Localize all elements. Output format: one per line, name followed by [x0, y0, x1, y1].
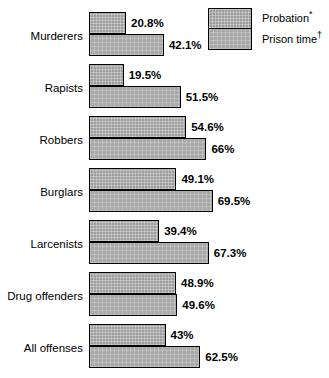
bar-probation: [89, 220, 159, 242]
bar-row: 49.6%: [89, 294, 215, 316]
bar-value-label: 39.4%: [164, 225, 197, 237]
bar-value-label: 49.6%: [182, 299, 215, 311]
bar-value-label: 66%: [211, 143, 234, 155]
bar-probation: [89, 116, 186, 138]
bar-probation: [89, 12, 126, 34]
bar-probation: [89, 272, 176, 294]
bar-group: Drug offenders48.9%49.6%: [0, 270, 329, 322]
bar-group: Burglars49.1%69.5%: [0, 166, 329, 218]
category-label: Drug offenders: [0, 270, 83, 322]
category-label: Larcenists: [0, 218, 83, 270]
category-label: All offenses: [0, 322, 83, 374]
bar-group: Rapists19.5%51.5%: [0, 62, 329, 114]
bar-row: 51.5%: [89, 86, 218, 108]
bar-group: All offenses43%62.5%: [0, 322, 329, 374]
bar-row: 66%: [89, 138, 235, 160]
bar-row: 19.5%: [89, 64, 161, 86]
bar-prison-time: [89, 294, 177, 316]
bar-probation: [89, 324, 166, 346]
bar-value-label: 43%: [171, 329, 194, 341]
category-label: Burglars: [0, 166, 83, 218]
bar-prison-time: [89, 138, 206, 160]
bar-value-label: 67.3%: [214, 247, 247, 259]
bar-row: 20.8%: [89, 12, 164, 34]
bar-prison-time: [89, 34, 164, 56]
bar-group: Robbers54.6%66%: [0, 114, 329, 166]
bar-prison-time: [89, 86, 181, 108]
bar-value-label: 20.8%: [131, 17, 164, 29]
bar-probation: [89, 64, 124, 86]
bar-row: 67.3%: [89, 242, 246, 264]
bar-value-label: 54.6%: [191, 121, 224, 133]
bar-row: 43%: [89, 324, 194, 346]
bar-row: 62.5%: [89, 346, 238, 368]
bar-row: 69.5%: [89, 190, 250, 212]
bar-prison-time: [89, 346, 200, 368]
bar-value-label: 19.5%: [129, 69, 162, 81]
bar-value-label: 42.1%: [169, 39, 202, 51]
bar-prison-time: [89, 242, 209, 264]
bar-row: 39.4%: [89, 220, 197, 242]
bar-probation: [89, 168, 176, 190]
bar-value-label: 51.5%: [186, 91, 219, 103]
category-label: Murderers: [0, 10, 83, 62]
bar-value-label: 49.1%: [181, 173, 214, 185]
bar-row: 49.1%: [89, 168, 214, 190]
bar-value-label: 48.9%: [181, 277, 214, 289]
bar-row: 42.1%: [89, 34, 202, 56]
category-label: Rapists: [0, 62, 83, 114]
category-label: Robbers: [0, 114, 83, 166]
bar-value-label: 69.5%: [218, 195, 251, 207]
bar-row: 54.6%: [89, 116, 224, 138]
bar-row: 48.9%: [89, 272, 214, 294]
bar-group: Murderers20.8%42.1%: [0, 10, 329, 62]
bar-prison-time: [89, 190, 213, 212]
bar-chart: Probation* Prison time† Murderers20.8%42…: [0, 0, 329, 378]
bar-group-container: Murderers20.8%42.1%Rapists19.5%51.5%Robb…: [0, 10, 329, 374]
bar-group: Larcenists39.4%67.3%: [0, 218, 329, 270]
bar-value-label: 62.5%: [205, 351, 238, 363]
